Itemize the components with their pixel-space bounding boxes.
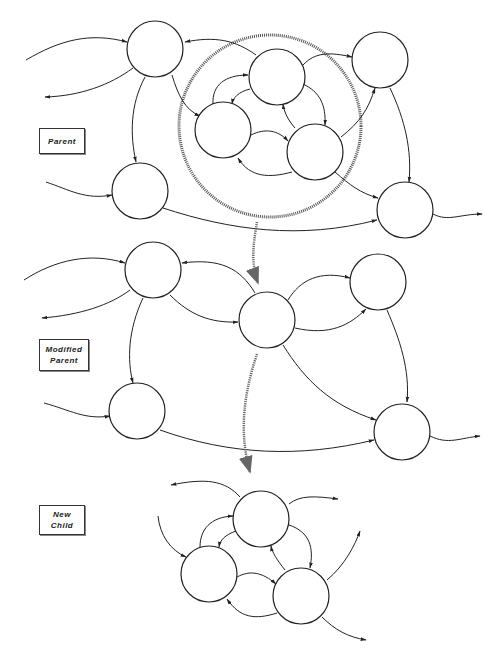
graph-diagram bbox=[0, 0, 503, 658]
parent-node-3 bbox=[112, 163, 168, 219]
transition-arrow-2 bbox=[244, 354, 257, 472]
parent-node-4 bbox=[377, 182, 433, 238]
modified-node-merged bbox=[239, 292, 295, 348]
modified-node-4 bbox=[374, 404, 430, 460]
new-child-label-line2: Child bbox=[51, 520, 74, 531]
modified-node-2 bbox=[350, 254, 406, 310]
parent-inner-node-1 bbox=[249, 49, 305, 105]
child-node-2 bbox=[181, 546, 237, 602]
parent-inner-node-2 bbox=[195, 102, 251, 158]
modified-node-1 bbox=[125, 242, 181, 298]
transition-arrow-1 bbox=[253, 222, 258, 283]
new-child-label: New Child bbox=[39, 505, 85, 535]
parent-inner-node-3 bbox=[287, 124, 343, 180]
parent-node-2 bbox=[352, 32, 408, 88]
new-child-label-line1: New bbox=[53, 509, 71, 520]
child-node-1 bbox=[233, 491, 289, 547]
modified-parent-label: Modified Parent bbox=[39, 339, 89, 371]
modified-parent-graph bbox=[24, 242, 480, 460]
parent-label: Parent bbox=[39, 128, 85, 154]
modified-parent-label-line1: Modified bbox=[46, 344, 83, 355]
parent-label-text: Parent bbox=[48, 136, 76, 147]
parent-graph bbox=[26, 21, 482, 238]
modified-node-3 bbox=[109, 383, 165, 439]
child-node-3 bbox=[273, 568, 329, 624]
modified-parent-label-line2: Parent bbox=[50, 355, 78, 366]
new-child-graph bbox=[158, 481, 366, 640]
parent-node-1 bbox=[127, 21, 183, 77]
